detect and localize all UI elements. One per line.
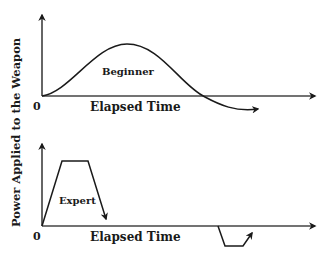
expert-label: Expert <box>59 195 96 206</box>
y-axis-label: Power Applied to the Weapon <box>9 37 23 227</box>
bottom-x-axis-label: Elapsed Time <box>90 230 181 244</box>
top-origin-label: 0 <box>33 100 41 113</box>
expert-negative-curve <box>218 226 252 246</box>
beginner-label: Beginner <box>102 66 155 77</box>
bottom-chart: Expert 0 Elapsed Time <box>33 144 315 246</box>
bottom-origin-label: 0 <box>33 230 41 243</box>
top-x-axis-label: Elapsed Time <box>90 100 181 114</box>
expert-curve <box>42 161 106 226</box>
diagram: Beginner 0 Elapsed Time Expert 0 Elapsed… <box>0 0 325 256</box>
top-chart: Beginner 0 Elapsed Time <box>33 15 315 114</box>
